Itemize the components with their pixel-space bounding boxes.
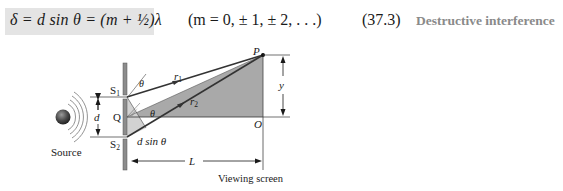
q-label: Q bbox=[113, 111, 121, 123]
d-label: d bbox=[94, 111, 100, 123]
s1-label: S1 bbox=[110, 84, 120, 98]
slit-barrier bbox=[123, 63, 127, 170]
p-label: P bbox=[252, 45, 260, 57]
l-label: L bbox=[188, 155, 195, 167]
r1-label: r1 bbox=[174, 70, 182, 84]
source-label: Source bbox=[51, 146, 82, 158]
theta-mid-label: θ bbox=[150, 108, 155, 119]
viewing-screen-label: Viewing screen bbox=[218, 173, 284, 184]
path-difference-label: d sin θ bbox=[137, 135, 167, 147]
double-slit-diagram: Source S1 S2 Q d θ θ r1 r2 d sin θ P O y… bbox=[0, 0, 563, 191]
source-ball-icon bbox=[56, 110, 71, 125]
theta-top-label: θ bbox=[139, 78, 144, 89]
y-label: y bbox=[278, 79, 284, 91]
s2-label: S2 bbox=[110, 138, 120, 152]
wavefront-arcs-icon bbox=[68, 92, 87, 142]
o-label: O bbox=[254, 118, 262, 130]
